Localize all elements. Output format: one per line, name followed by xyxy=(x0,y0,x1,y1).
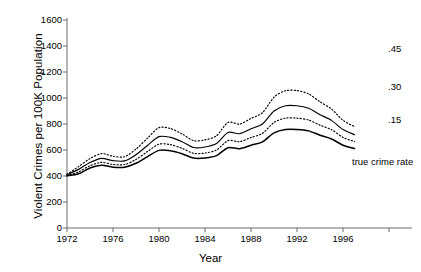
y-tick-marks xyxy=(63,20,67,228)
chart-plot-area xyxy=(0,0,421,272)
series-curve--30 xyxy=(67,105,355,174)
data-series-group xyxy=(67,90,355,176)
axes-group xyxy=(63,18,412,232)
x-tick-marks xyxy=(67,228,389,232)
violent-crime-line-chart: Violent Crimes per 100K Population Year … xyxy=(0,0,421,272)
series-curve-true-crime-rate xyxy=(67,129,355,176)
